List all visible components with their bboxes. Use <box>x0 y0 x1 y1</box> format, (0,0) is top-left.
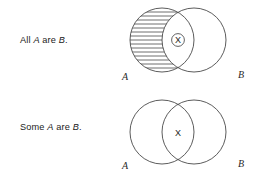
caption-middle: are <box>54 122 73 132</box>
diagram-row-all-a-are-b: All A are B. <box>0 0 258 89</box>
set-label-a: A <box>121 160 129 171</box>
hatched-region-a-not-b <box>126 12 202 68</box>
diagram-row-some-a-are-b: Some A are B. X A B <box>0 89 258 178</box>
marker-x-label: X <box>175 35 181 45</box>
caption-suffix: . <box>79 122 82 132</box>
marker-x-plain: X <box>175 128 181 138</box>
caption-middle: are <box>40 35 59 45</box>
marker-x-label: X <box>175 128 181 138</box>
diagram-page: All A are B. <box>0 0 258 178</box>
caption-prefix: Some <box>20 122 47 132</box>
venn-diagram-some: X A B <box>110 89 258 178</box>
caption-prefix: All <box>20 35 33 45</box>
set-label-b: B <box>238 69 244 80</box>
caption-all-a-are-b: All A are B. <box>20 35 68 46</box>
set-label-b: B <box>238 158 244 169</box>
caption-some-a-are-b: Some A are B. <box>20 122 82 133</box>
hatch-lines <box>126 12 202 68</box>
caption-suffix: . <box>65 35 68 45</box>
venn-diagram-all: X A B <box>110 0 258 89</box>
marker-x-circled: X <box>172 34 185 47</box>
set-label-a: A <box>121 71 129 82</box>
